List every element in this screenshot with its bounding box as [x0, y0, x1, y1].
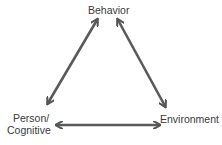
- node-behavior: Behavior: [88, 4, 129, 16]
- node-person-line2: Cognitive: [7, 124, 51, 136]
- arrow-person-behavior: [48, 20, 97, 103]
- arrow-behavior-environment: [118, 20, 165, 106]
- node-person-line1: Person/: [13, 112, 49, 124]
- node-environment: Environment: [160, 113, 219, 125]
